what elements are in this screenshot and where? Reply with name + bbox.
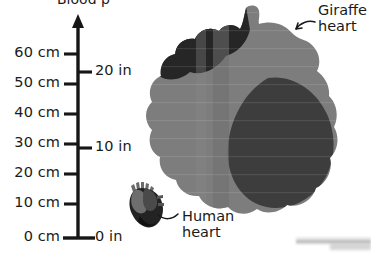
ruler-label-0cm: 0 cm: [0, 229, 60, 244]
ruler-label-50cm: 50 cm: [0, 75, 60, 90]
ruler-label-10cm: 10 cm: [0, 195, 60, 210]
callout-human-heart-line2: heart: [182, 225, 221, 241]
callout-giraffe-heart-line1: Giraffe: [318, 3, 367, 19]
human-heart-illustration: [129, 182, 164, 227]
ruler-label-20in: 20 in: [95, 63, 132, 78]
scan-artifact-secondary: [330, 244, 371, 250]
ruler-label-20cm: 20 cm: [0, 165, 60, 180]
ruler-label-30cm: 30 cm: [0, 135, 60, 150]
ruler-label-10in: 10 in: [95, 139, 132, 154]
callout-human-heart-line1: Human: [182, 209, 234, 225]
page-title: Blood p: [57, 0, 110, 6]
figure-canvas: Blood p 60 cm 50 cm 40 cm 30 cm 20 cm 10…: [0, 0, 371, 256]
ruler-label-0in: 0 in: [95, 229, 122, 244]
ruler-graphic: [63, 14, 95, 238]
ruler-label-60cm: 60 cm: [0, 45, 60, 60]
callout-giraffe-heart-line2: heart: [318, 19, 357, 35]
ruler-label-40cm: 40 cm: [0, 105, 60, 120]
